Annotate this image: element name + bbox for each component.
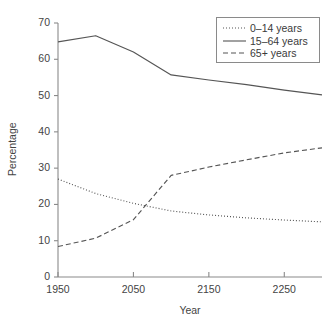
x-tick-label: 2150	[189, 284, 229, 295]
x-tick-label: 2250	[264, 284, 304, 295]
legend-swatch-dashed-icon	[222, 49, 247, 57]
legend-item-2: 65+ years	[222, 47, 314, 60]
y-tick-label: 20	[0, 198, 50, 209]
legend-item-1: 15–64 years	[222, 35, 314, 48]
y-axis-title: Percentage	[7, 119, 18, 179]
x-tick-label: 1950	[38, 284, 78, 295]
y-tick-label: 60	[0, 53, 50, 64]
x-axis-ticks	[58, 272, 284, 277]
legend-label-0: 0–14 years	[250, 23, 302, 34]
y-tick-label: 10	[0, 235, 50, 246]
legend-item-0: 0–14 years	[222, 22, 314, 35]
y-axis-ticks	[54, 23, 58, 277]
y-tick-label: 0	[0, 271, 50, 282]
legend-swatch-solid-icon	[222, 37, 247, 45]
legend: 0–14 years 15–64 years 65+ years	[216, 17, 320, 63]
y-tick-label: 50	[0, 90, 50, 101]
data-series-layer	[58, 36, 322, 247]
legend-swatch-dotted-icon	[222, 24, 247, 32]
x-tick-label: 2050	[113, 284, 153, 295]
series-line-2	[58, 148, 322, 247]
series-line-0	[58, 179, 322, 222]
legend-label-2: 65+ years	[250, 48, 296, 59]
legend-label-1: 15–64 years	[250, 36, 308, 47]
line-chart: 010203040506070 1950205021502250 Percent…	[0, 0, 328, 325]
y-tick-label: 70	[0, 17, 50, 28]
x-axis-title: Year	[160, 305, 220, 316]
